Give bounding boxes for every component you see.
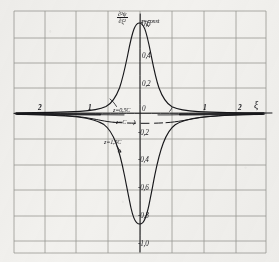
y-tick-m0-6: -0,6: [138, 185, 149, 192]
x-tick-plus-1: 1: [203, 104, 207, 111]
y-tick-m1-0: -1,0: [138, 241, 149, 248]
y-axis-title-denominator: ∂ξ²: [117, 18, 128, 24]
y-tick-0: 0: [142, 106, 145, 113]
y-axis-title: ∂²ψ ∂ξ²: [117, 11, 128, 24]
label-curve-z-0-5-C: z=0,5C: [113, 107, 130, 113]
x-tick-plus-2: 2: [238, 104, 242, 111]
y-tick-0-4: 0,4: [142, 53, 150, 60]
leader-z-C: [134, 121, 136, 125]
y-tick-m0-2: -0,2: [138, 130, 149, 137]
x-axis-label: ξ: [254, 100, 258, 110]
y-tick-m0-8: -0,8: [138, 213, 149, 220]
figure-panel: ∂²ψ ∂ξ² z=const 0,6 0,4 0,2 0 -0,2 -0,4 …: [0, 0, 279, 262]
y-axis-title-numerator: ∂²ψ: [117, 11, 128, 18]
label-curve-z-1-5-C: z=1,5C: [104, 139, 121, 145]
y-tick-m0-4: -0,4: [138, 157, 149, 164]
y-tick-0-2: 0,2: [142, 81, 150, 88]
x-tick-minus-2: 2: [38, 104, 42, 111]
x-tick-minus-1: 1: [88, 104, 92, 111]
label-curve-z-C: z=C: [116, 119, 126, 125]
y-tick-0-6: 0,6: [142, 21, 150, 28]
